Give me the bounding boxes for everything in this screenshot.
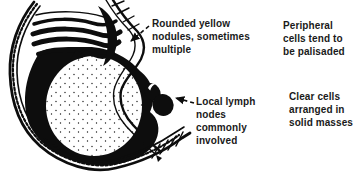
lymph-nodes-label: Local lymph nodes commonly involved — [196, 95, 255, 147]
tumour-nodule-mass — [46, 56, 142, 156]
clear-cells-label: Clear cells arranged in solid masses — [289, 90, 353, 129]
peripheral-cells-label: Peripheral cells tend to be palisaded — [283, 19, 345, 58]
dashed-arrow-lymph — [176, 98, 194, 103]
nodules-label: Rounded yellow nodules, sometimes multip… — [152, 17, 250, 56]
figure-panel: Rounded yellow nodules, sometimes multip… — [0, 0, 364, 176]
